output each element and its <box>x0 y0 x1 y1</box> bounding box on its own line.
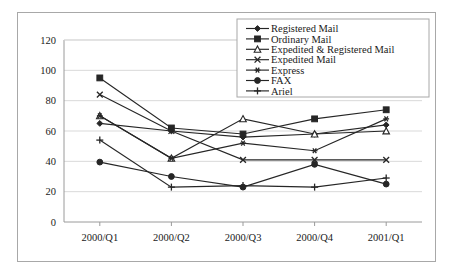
data-point-marker <box>97 121 103 127</box>
x-axis-tick-label: 2001/Q1 <box>368 232 405 243</box>
y-axis-tick-label: 20 <box>46 186 57 197</box>
legend: Registered MailOrdinary MailExpedited & … <box>237 19 429 97</box>
line-chart: 1201008060402002000/Q12000/Q22000/Q32000… <box>18 13 435 261</box>
series-line <box>100 140 386 187</box>
data-point-marker <box>240 131 246 137</box>
series-ariel <box>96 137 389 191</box>
y-axis-tick-label: 80 <box>46 95 57 106</box>
y-axis-tick-label: 40 <box>46 156 57 167</box>
x-axis-tick-label: 2000/Q4 <box>296 232 334 243</box>
series-line <box>100 95 386 160</box>
y-axis-tick-label: 60 <box>46 126 57 137</box>
y-axis-tick-label: 100 <box>40 65 56 76</box>
legend-label: Ariel <box>271 86 293 97</box>
chart-frame: 1201008060402002000/Q12000/Q22000/Q32000… <box>17 12 436 262</box>
x-axis-tick-label: 2000/Q2 <box>153 232 190 243</box>
legend-label: Ordinary Mail <box>271 34 331 45</box>
data-point-marker <box>97 75 103 81</box>
legend-label: FAX <box>271 75 292 86</box>
y-axis-tick-label: 120 <box>40 35 56 46</box>
x-axis-tick-label: 2000/Q3 <box>225 232 262 243</box>
y-axis-tick-label: 0 <box>51 217 56 228</box>
data-point-marker <box>240 116 247 122</box>
data-point-marker <box>312 161 318 167</box>
data-point-marker <box>383 107 389 113</box>
legend-label: Express <box>271 65 304 76</box>
legend-label: Expedited Mail <box>271 54 336 65</box>
data-point-marker <box>169 174 175 180</box>
legend-label: Expedited & Registered Mail <box>271 44 394 55</box>
legend-marker <box>255 78 261 84</box>
data-point-marker <box>97 159 103 165</box>
legend-marker <box>255 36 261 42</box>
data-point-marker <box>383 181 389 187</box>
x-axis-tick-label: 2000/Q1 <box>81 232 118 243</box>
legend-label: Registered Mail <box>271 23 338 34</box>
data-point-marker <box>312 116 318 122</box>
